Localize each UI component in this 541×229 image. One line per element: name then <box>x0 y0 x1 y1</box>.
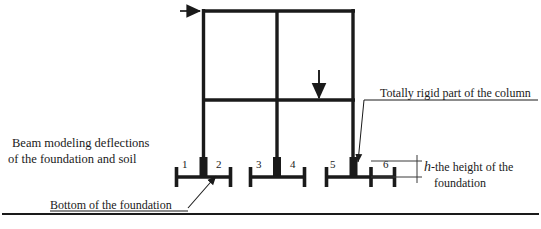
rigid-part-column-1 <box>200 157 208 177</box>
label-bottom-of-foundation: Bottom of the foundation <box>50 198 172 213</box>
leader-totally-rigid <box>358 100 538 162</box>
label-height-annotation: h-the height of the foundation <box>424 158 513 191</box>
label-height-text-line2: foundation <box>434 176 513 191</box>
foundation-beams <box>175 167 396 187</box>
node-number-5: 5 <box>330 158 336 170</box>
structural-frame-diagram <box>0 0 541 229</box>
rigid-part-column-2 <box>273 157 281 177</box>
label-beam-modeling-line1: Beam modeling deflections <box>12 136 149 150</box>
label-beam-modeling: Beam modeling deflections of the foundat… <box>12 136 149 167</box>
node-number-6: 6 <box>383 158 389 170</box>
node-number-1: 1 <box>182 158 188 170</box>
label-totally-rigid: Totally rigid part of the column <box>380 86 531 101</box>
node-number-2: 2 <box>216 158 222 170</box>
load-arrows <box>180 11 319 98</box>
label-height-text-line1: -the height of the <box>431 160 513 174</box>
rigid-part-column-3 <box>350 157 358 177</box>
label-beam-modeling-line2: of the foundation and soil <box>8 152 149 168</box>
node-number-3: 3 <box>256 158 262 170</box>
node-number-4: 4 <box>290 158 296 170</box>
frame-structure <box>202 9 355 166</box>
label-height-symbol: h <box>424 159 431 174</box>
